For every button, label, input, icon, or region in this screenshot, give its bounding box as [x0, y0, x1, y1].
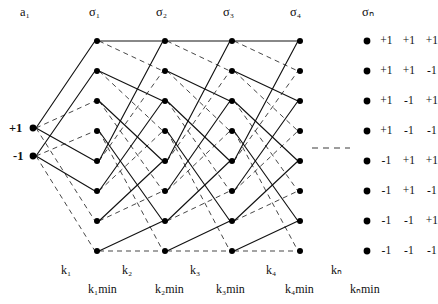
state-node — [297, 128, 303, 134]
state-sign: +1 — [397, 154, 421, 166]
state-node — [30, 125, 37, 132]
state-sign: -1 — [421, 64, 438, 76]
bottom-min-label-k3min: k₃min — [216, 283, 245, 295]
state-node — [94, 68, 100, 74]
state-node — [297, 248, 303, 254]
state-node — [229, 188, 235, 194]
state-node — [162, 68, 168, 74]
state-node — [229, 128, 235, 134]
source-state-minus1: -1 — [13, 150, 23, 163]
trellis-graph — [0, 0, 438, 304]
state-node — [229, 38, 235, 44]
state-sign: -1 — [421, 244, 438, 256]
state-label-row: +1-1+1 — [376, 94, 438, 106]
bottom-label-k2: k₂ — [122, 264, 132, 276]
stage-header-n: σₙ — [362, 6, 374, 19]
state-sign: +1 — [397, 64, 421, 76]
stage-header-4: σ₄ — [290, 6, 301, 19]
state-node — [162, 38, 168, 44]
state-label-row: +1+1+1 — [376, 34, 438, 46]
source-state-plus1: +1 — [9, 122, 22, 135]
state-node — [30, 153, 37, 160]
stage-header-3: σ₃ — [223, 6, 234, 19]
state-node — [229, 68, 235, 74]
state-node — [162, 248, 168, 254]
state-node — [364, 158, 371, 165]
state-node — [297, 98, 303, 104]
state-sign: -1 — [421, 184, 438, 196]
bottom-label-k1: k₁ — [61, 264, 71, 276]
stage-header-2: σ₂ — [156, 6, 167, 19]
state-node — [297, 68, 303, 74]
state-sign: -1 — [376, 184, 397, 196]
state-node — [94, 188, 100, 194]
state-label-row: +1+1-1 — [376, 64, 438, 76]
state-sign: +1 — [421, 154, 438, 166]
state-sign: -1 — [376, 244, 397, 256]
state-sign: -1 — [397, 94, 421, 106]
state-node — [229, 98, 235, 104]
state-node — [229, 218, 235, 224]
figure-canvas: a₁ σ₁ σ₂ σ₃ σ₄ σₙ +1 -1 k₁ k₂ k₃ k₄ kₙ k… — [0, 0, 438, 304]
state-label-row: -1-1-1 — [376, 244, 438, 256]
state-sign: +1 — [421, 94, 438, 106]
state-node — [94, 98, 100, 104]
state-sign: +1 — [376, 34, 397, 46]
state-node — [364, 128, 371, 135]
state-node — [162, 128, 168, 134]
state-node — [297, 218, 303, 224]
state-node — [364, 248, 371, 255]
state-label-row: +1-1-1 — [376, 124, 438, 136]
state-node — [94, 128, 100, 134]
bottom-min-label-knmin: kₙmin — [350, 283, 380, 295]
state-sign: -1 — [421, 124, 438, 136]
state-sign: +1 — [421, 214, 438, 226]
state-node — [162, 158, 168, 164]
state-label-row: -1-1+1 — [376, 214, 438, 226]
state-node — [297, 188, 303, 194]
state-sign: +1 — [397, 34, 421, 46]
state-label-row: -1+1+1 — [376, 154, 438, 166]
state-node-group — [30, 38, 371, 255]
state-node — [364, 188, 371, 195]
state-sign: +1 — [376, 94, 397, 106]
state-node — [162, 218, 168, 224]
stage-header-1: σ₁ — [89, 6, 100, 19]
state-sign: -1 — [397, 124, 421, 136]
state-sign: -1 — [397, 214, 421, 226]
state-node — [94, 248, 100, 254]
state-node — [229, 158, 235, 164]
state-sign: +1 — [376, 124, 397, 136]
state-sign: -1 — [376, 214, 397, 226]
state-sign: -1 — [397, 244, 421, 256]
state-label-row: -1+1-1 — [376, 184, 438, 196]
state-node — [364, 218, 371, 225]
state-sign: -1 — [376, 154, 397, 166]
bottom-min-label-k4min: k₄min — [285, 283, 314, 295]
bottom-label-k3: k₃ — [190, 264, 200, 276]
state-node — [364, 98, 371, 105]
state-sign: +1 — [421, 34, 438, 46]
state-node — [94, 38, 100, 44]
state-node — [297, 158, 303, 164]
state-node — [94, 158, 100, 164]
bottom-label-k4: k₄ — [266, 264, 276, 276]
state-node — [229, 248, 235, 254]
state-node — [162, 188, 168, 194]
state-node — [364, 68, 371, 75]
state-node — [364, 38, 371, 45]
state-node — [94, 218, 100, 224]
bottom-min-label-k2min: k₂min — [155, 283, 184, 295]
state-sign: +1 — [376, 64, 397, 76]
bottom-min-label-k1min: k₁min — [88, 283, 117, 295]
input-label: a₁ — [20, 6, 30, 19]
state-node — [162, 98, 168, 104]
bottom-label-kn: kₙ — [331, 264, 342, 276]
state-sign: +1 — [397, 184, 421, 196]
state-node — [297, 38, 303, 44]
